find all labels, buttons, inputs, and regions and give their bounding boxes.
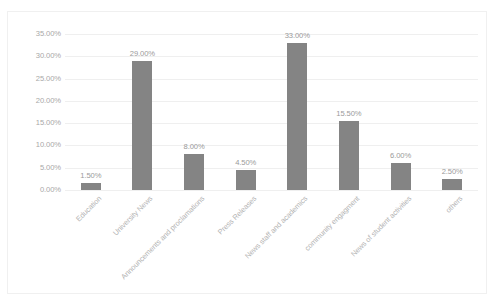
chart-title [8, 6, 497, 13]
bar-group: 33.00% [272, 34, 324, 190]
bar [442, 179, 462, 190]
x-axis-category-label: Press Releases [216, 194, 258, 236]
x-axis-category-label: News of student activities [349, 194, 413, 258]
bar-group: 29.00% [117, 34, 169, 190]
bar-value-label: 2.50% [442, 167, 463, 176]
bar-value-label: 29.00% [130, 49, 155, 58]
plot-area: 1.50%29.00%8.00%4.50%33.00%15.50%6.00%2.… [65, 34, 478, 190]
bar-value-label: 4.50% [235, 158, 256, 167]
x-axis-category-label: community engagment [303, 194, 362, 253]
y-axis-tick-label: 5.00% [15, 163, 61, 172]
y-axis-tick-label: 35.00% [15, 29, 61, 38]
bar-group: 2.50% [426, 34, 478, 190]
chart-container: 35.00%30.00%25.00%20.00%15.00%10.00%5.00… [7, 11, 487, 294]
x-axis-category-label: Education [74, 194, 103, 223]
bar-group: 15.50% [323, 34, 375, 190]
bar-group: 1.50% [65, 34, 117, 190]
x-axis-category-label: Announcements and proclamations [119, 194, 206, 281]
x-axis-category-label: others [444, 194, 465, 215]
x-axis-category-label: University News [112, 194, 155, 237]
y-axis-tick-label: 25.00% [15, 74, 61, 83]
bar-value-label: 15.50% [336, 109, 361, 118]
bar [339, 121, 359, 190]
bar-value-label: 8.00% [184, 142, 205, 151]
bar-value-label: 6.00% [390, 151, 411, 160]
bar-group: 8.00% [168, 34, 220, 190]
bar-group: 6.00% [375, 34, 427, 190]
y-axis-tick-label: 30.00% [15, 51, 61, 60]
bar-group: 4.50% [220, 34, 272, 190]
bar [391, 163, 411, 190]
bar-value-label: 1.50% [80, 171, 101, 180]
y-axis: 35.00%30.00%25.00%20.00%15.00%10.00%5.00… [13, 34, 61, 190]
bar [287, 43, 307, 190]
bar [236, 170, 256, 190]
y-axis-tick-label: 20.00% [15, 96, 61, 105]
y-axis-tick-label: 0.00% [15, 185, 61, 194]
y-axis-tick-label: 10.00% [15, 140, 61, 149]
y-axis-tick-label: 15.00% [15, 118, 61, 127]
bar-value-label: 33.00% [285, 31, 310, 40]
bar [184, 154, 204, 190]
x-axis: EducationUniversity NewsAnnouncements an… [65, 190, 478, 290]
bar [81, 183, 101, 190]
bar [132, 61, 152, 190]
